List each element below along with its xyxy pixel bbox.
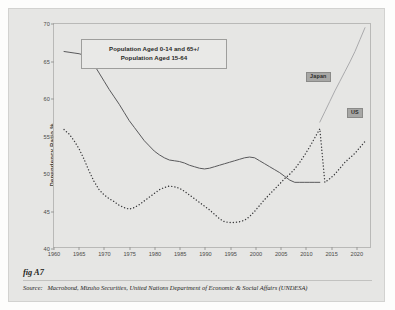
caption-block: fig A7 Source: Macrobond, Mizuho Securit… (23, 268, 372, 292)
x-tick-mark (104, 247, 105, 250)
x-tick-label: 2020 (351, 251, 363, 257)
x-tick-label: 1985 (174, 251, 186, 257)
x-tick-mark (255, 247, 256, 250)
series-path-japan (64, 52, 320, 183)
x-tick-label: 1965 (73, 251, 85, 257)
chart-figure: Dependency Ratio % 404550556065701960196… (8, 8, 385, 302)
x-tick-mark (79, 247, 80, 250)
source-text: Macrobond, Mizuho Securities, United Nat… (47, 284, 307, 291)
figure-page: Dependency Ratio % 404550556065701960196… (0, 0, 395, 310)
chart-title-box: Population Aged 0-14 and 65+/ Population… (81, 39, 227, 69)
source-line: Source: Macrobond, Mizuho Securities, Un… (23, 284, 372, 291)
source-prefix: Source: (23, 284, 43, 291)
y-tick-mark (51, 99, 54, 100)
x-tick-label: 1995 (224, 251, 236, 257)
series-label-japan: Japan (306, 72, 331, 82)
y-tick-mark (51, 211, 54, 212)
y-tick-mark (51, 174, 54, 175)
y-tick-mark (51, 24, 54, 25)
chart-title-line-2: Population Aged 15-64 (86, 54, 222, 63)
y-tick-label: 55 (44, 134, 50, 140)
x-tick-mark (281, 247, 282, 250)
y-tick-label: 70 (44, 21, 50, 27)
x-tick-label: 2015 (325, 251, 337, 257)
x-tick-label: 2005 (275, 251, 287, 257)
x-tick-label: 1975 (123, 251, 135, 257)
series-path-us (64, 129, 365, 223)
y-tick-label: 65 (44, 59, 50, 65)
figure-label: fig A7 (23, 268, 372, 277)
x-tick-mark (54, 247, 55, 250)
chart-title-line-1: Population Aged 0-14 and 65+/ (86, 45, 222, 54)
x-tick-label: 1960 (48, 251, 60, 257)
x-tick-label: 1990 (199, 251, 211, 257)
x-tick-mark (129, 247, 130, 250)
caption-divider (23, 280, 372, 281)
x-tick-mark (154, 247, 155, 250)
x-tick-mark (356, 247, 357, 250)
y-tick-label: 45 (44, 209, 50, 215)
x-tick-label: 2010 (300, 251, 312, 257)
y-tick-mark (51, 61, 54, 62)
x-tick-mark (205, 247, 206, 250)
y-tick-label: 60 (44, 96, 50, 102)
x-tick-label: 2000 (250, 251, 262, 257)
series-label-us: US (347, 108, 363, 118)
x-tick-label: 1970 (98, 251, 110, 257)
y-tick-mark (51, 136, 54, 137)
x-tick-mark (230, 247, 231, 250)
y-tick-label: 50 (44, 171, 50, 177)
x-tick-mark (180, 247, 181, 250)
x-tick-mark (331, 247, 332, 250)
x-tick-mark (306, 247, 307, 250)
x-tick-label: 1980 (149, 251, 161, 257)
